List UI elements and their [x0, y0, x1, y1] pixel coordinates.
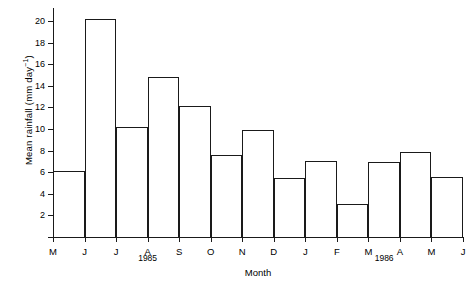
year-label: 1985	[138, 253, 157, 263]
x-axis-tick-label: M	[364, 246, 372, 257]
x-axis-tick	[337, 237, 338, 242]
bar	[148, 77, 180, 237]
rainfall-bar-chart: Mean rainfall (mm day−1) 246810121416182…	[0, 0, 474, 284]
y-axis-tick-label: 2	[40, 210, 45, 220]
x-axis-tick	[431, 237, 432, 242]
plot-area: 2468101214161820 MJJASONDJFMAMJ	[53, 8, 463, 237]
bar	[85, 19, 117, 237]
x-axis-line	[48, 237, 464, 238]
x-axis-tick-label: S	[176, 246, 182, 257]
y-axis-tick-label: 8	[40, 146, 45, 156]
bar	[337, 204, 369, 237]
x-axis-tick-label: J	[303, 246, 308, 257]
bar	[400, 152, 432, 237]
bar	[431, 177, 463, 237]
bar	[53, 171, 85, 237]
y-axis-tick	[48, 86, 53, 87]
y-axis-tick-label: 18	[35, 38, 45, 48]
y-axis-tick	[48, 107, 53, 108]
x-axis-tick	[400, 237, 401, 242]
bar	[274, 178, 306, 237]
x-axis-tick	[85, 237, 86, 242]
y-axis-tick-label: 12	[35, 102, 45, 112]
y-axis-title-main: Mean rainfall (mm day	[23, 67, 34, 165]
x-axis-tick-label: J	[82, 246, 87, 257]
bar	[116, 127, 148, 237]
y-axis-tick-label: 20	[35, 16, 45, 26]
y-axis-tick-label: 14	[35, 81, 45, 91]
y-axis-tick	[48, 43, 53, 44]
y-axis-tick-label: 16	[35, 59, 45, 69]
y-axis-tick	[48, 21, 53, 22]
x-axis-tick	[179, 237, 180, 242]
x-axis-tick-label: A	[397, 246, 403, 257]
y-axis-title: Mean rainfall (mm day−1)	[22, 20, 34, 200]
bar	[305, 161, 337, 237]
bar	[242, 130, 274, 237]
x-axis-tick-label: M	[427, 246, 435, 257]
x-axis-tick-label: J	[461, 246, 466, 257]
x-axis-tick	[211, 237, 212, 242]
y-axis-tick-label: 4	[40, 189, 45, 199]
y-axis-title-exponent: −1	[22, 58, 29, 66]
x-axis-tick-label: D	[270, 246, 277, 257]
y-axis-tick	[48, 129, 53, 130]
x-axis-tick	[305, 237, 306, 242]
y-axis-tick-label: 6	[40, 167, 45, 177]
x-axis-tick	[368, 237, 369, 242]
x-axis-title: Month	[245, 267, 271, 278]
x-axis-tick-label: N	[239, 246, 246, 257]
y-axis-title-tail: )	[23, 55, 34, 58]
x-axis-tick-label: M	[49, 246, 57, 257]
x-axis-tick-label: F	[334, 246, 340, 257]
x-axis-tick-label: O	[207, 246, 214, 257]
x-axis-tick-label: J	[114, 246, 119, 257]
y-axis-tick	[48, 64, 53, 65]
y-axis-tick-label: 10	[35, 124, 45, 134]
x-axis-tick	[274, 237, 275, 242]
y-axis-tick	[48, 151, 53, 152]
year-label: 1986	[375, 253, 394, 263]
bar	[211, 155, 243, 237]
x-axis-tick	[148, 237, 149, 242]
x-axis-tick	[463, 237, 464, 242]
x-axis-tick	[242, 237, 243, 242]
x-axis-tick	[53, 237, 54, 242]
x-axis-tick	[116, 237, 117, 242]
bar	[368, 162, 400, 237]
bar	[179, 106, 211, 237]
